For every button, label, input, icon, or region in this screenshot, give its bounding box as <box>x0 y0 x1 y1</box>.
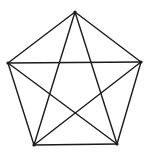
edge-bottom-right-bottom-left <box>34 144 117 145</box>
vertex-bottom-left <box>32 143 35 146</box>
vertex-right <box>139 60 142 63</box>
edge-left-right <box>8 62 141 63</box>
vertex-bottom-right <box>115 142 118 145</box>
edge-top-bottom-left <box>34 12 75 145</box>
edge-left-top <box>8 12 75 63</box>
edge-top-right <box>75 12 141 62</box>
edge-left-bottom-right <box>8 63 117 144</box>
graph-edges <box>8 12 141 145</box>
edge-bottom-left-left <box>8 63 34 145</box>
edge-top-bottom-right <box>75 12 117 144</box>
edge-right-bottom-right <box>117 62 141 144</box>
edge-right-bottom-left <box>34 62 141 145</box>
vertex-top <box>73 10 76 13</box>
complete-graph-diagram <box>0 0 147 156</box>
vertex-left <box>6 61 9 64</box>
